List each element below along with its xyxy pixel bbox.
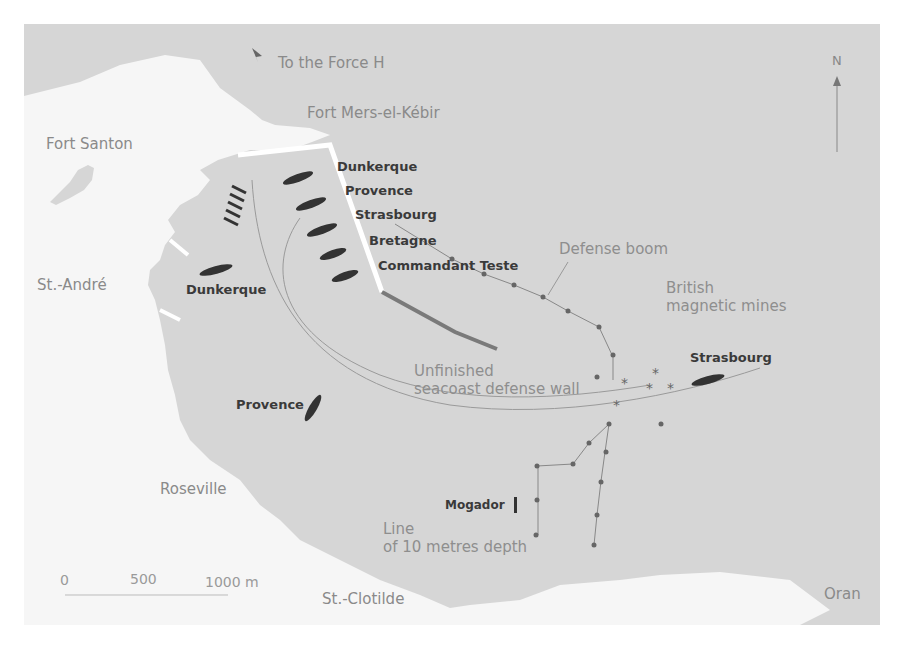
label-roseville: Roseville [160,482,227,497]
label-st-andre: St.-André [37,278,107,293]
label-mers-el-kebir: Fort Mers-el-Kébir [307,106,440,121]
moored-label-dunkerque: Dunkerque [337,160,417,173]
moored-label-commandant-teste: Commandant Teste [378,259,518,272]
label-st-clotilde: St.-Clotilde [322,592,404,607]
moored-label-strasbourg: Strasbourg [355,208,437,221]
compass-label: N [832,54,842,67]
label-depth-line: Line of 10 metres depth [383,520,527,556]
label-defense-wall: Unfinished seacoast defense wall [414,362,580,398]
position-label-mogador: Mogador [445,499,505,511]
scale-label-0: 0 [60,573,69,587]
label-defense-boom: Defense boom [559,240,668,258]
label-british-mines: British magnetic mines [666,279,786,315]
moored-label-provence: Provence [345,184,413,197]
position-label-provence: Provence [236,398,304,411]
position-label-dunkerque: Dunkerque [186,283,266,296]
svg-text:*: * [667,380,674,396]
position-label-strasbourg: Strasbourg [690,351,772,364]
svg-text:*: * [613,397,620,413]
label-oran: Oran [824,587,861,602]
label-fort-santon: Fort Santon [46,137,133,152]
scale-label-500: 500 [130,572,157,586]
label-force-h: To the Force H [278,56,385,71]
scale-label-1000: 1000 m [205,575,259,589]
moored-label-bretagne: Bretagne [369,234,437,247]
svg-text:*: * [652,365,659,381]
svg-text:*: * [621,375,628,391]
svg-text:*: * [646,380,653,396]
